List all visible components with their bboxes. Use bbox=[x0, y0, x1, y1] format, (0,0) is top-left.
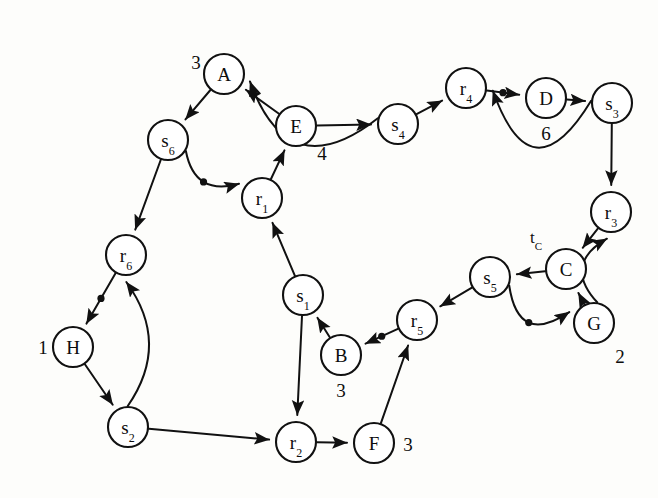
edge-line bbox=[578, 293, 584, 304]
node-label-s4: s4 bbox=[391, 115, 404, 134]
node-label-G: G bbox=[587, 314, 601, 333]
edge-token-dot bbox=[499, 89, 506, 96]
node-label-A: A bbox=[217, 65, 231, 84]
edge-line bbox=[611, 124, 612, 185]
graph-figure: As6Es4r4Ds3r3Cs5Gr1r6Hs2s1Br5r2F3461332t… bbox=[0, 0, 658, 498]
node-label-r5: r5 bbox=[411, 311, 423, 330]
node-subscript-s1: 1 bbox=[304, 298, 310, 312]
tag-label-C: tC bbox=[530, 229, 542, 246]
annotation-B: 3 bbox=[336, 381, 346, 400]
edge-line bbox=[417, 101, 443, 115]
node-subscript-r4: 4 bbox=[466, 91, 472, 105]
node-label-H: H bbox=[66, 338, 80, 357]
node-label-C: C bbox=[560, 260, 573, 279]
edge-r5-to-B bbox=[366, 329, 398, 344]
edge-token-dot bbox=[200, 178, 207, 185]
edge-line bbox=[186, 151, 239, 187]
edge-s1-to-r2 bbox=[297, 316, 302, 415]
tag-subscript-C: C bbox=[535, 240, 542, 252]
node-label-D: D bbox=[539, 89, 553, 108]
node-label-s6: s6 bbox=[161, 131, 174, 150]
node-subscript-s2: 2 bbox=[129, 430, 135, 444]
edge-C-to-s5 bbox=[517, 271, 545, 274]
edge-token-dot bbox=[378, 333, 385, 340]
node-subscript-s4: 4 bbox=[399, 127, 405, 141]
edge-line bbox=[271, 150, 285, 179]
node-subscript-r6: 6 bbox=[126, 258, 132, 272]
nodes-layer bbox=[53, 54, 632, 463]
edge-line bbox=[273, 223, 295, 276]
node-subscript-r2: 2 bbox=[296, 445, 302, 459]
edge-line bbox=[317, 125, 371, 126]
node-subscript-s5: 5 bbox=[491, 280, 497, 294]
edge-token-dot bbox=[97, 295, 104, 302]
edge-s2-to-r2 bbox=[149, 429, 269, 440]
node-subscript-r3: 3 bbox=[611, 215, 617, 229]
edge-token-dot bbox=[525, 319, 532, 326]
node-subscript-r5: 5 bbox=[417, 323, 423, 337]
edge-r4-to-D bbox=[487, 89, 519, 96]
annotation-E: 4 bbox=[317, 144, 327, 163]
edge-line bbox=[185, 90, 210, 119]
node-label-r1: r1 bbox=[256, 189, 268, 208]
annotation-F: 3 bbox=[403, 435, 413, 454]
edge-line bbox=[509, 285, 569, 324]
edge-G-to-C bbox=[578, 293, 584, 304]
edge-s6-to-r1 bbox=[186, 151, 239, 187]
edge-r1-to-E bbox=[271, 150, 285, 179]
edge-line bbox=[126, 282, 149, 406]
edge-line bbox=[517, 271, 545, 274]
graph-canvas bbox=[0, 0, 658, 498]
edge-s6-to-r6 bbox=[135, 160, 161, 230]
annotation-G: 2 bbox=[615, 347, 625, 366]
edge-line bbox=[567, 100, 585, 101]
edge-H-to-s2 bbox=[85, 364, 113, 404]
node-label-r2: r2 bbox=[290, 433, 302, 452]
node-label-F: F bbox=[369, 434, 380, 453]
edge-line bbox=[149, 429, 269, 440]
edge-s1-to-r1 bbox=[273, 223, 295, 276]
edge-line bbox=[85, 364, 113, 404]
annotation-D: 6 bbox=[541, 124, 551, 143]
node-label-r3: r3 bbox=[605, 203, 617, 222]
node-label-s5: s5 bbox=[483, 268, 496, 287]
edge-line bbox=[297, 316, 302, 415]
edge-s5-to-G bbox=[509, 285, 569, 326]
annotation-A: 3 bbox=[191, 53, 201, 72]
edge-s5-to-r5 bbox=[440, 288, 472, 307]
node-label-r4: r4 bbox=[460, 79, 472, 98]
edge-r6-to-H bbox=[86, 273, 115, 323]
edge-F-to-r5 bbox=[381, 345, 408, 423]
edge-B-to-s1 bbox=[317, 318, 329, 337]
edge-A-to-s6 bbox=[185, 90, 210, 119]
edge-D-to-s3 bbox=[567, 100, 585, 101]
edge-s4-to-r4 bbox=[417, 101, 443, 115]
annotation-H: 1 bbox=[38, 338, 48, 357]
node-subscript-s6: 6 bbox=[169, 143, 175, 157]
edge-s3-to-r3 bbox=[611, 124, 612, 185]
node-label-r6: r6 bbox=[120, 246, 132, 265]
node-label-E: E bbox=[290, 117, 302, 136]
node-subscript-r1: 1 bbox=[262, 201, 268, 215]
edge-line bbox=[135, 160, 161, 230]
node-label-s2: s2 bbox=[121, 418, 134, 437]
edge-r3-to-C bbox=[583, 228, 598, 247]
node-label-s1: s1 bbox=[296, 286, 309, 305]
edge-line bbox=[440, 288, 472, 307]
edge-line bbox=[317, 318, 329, 337]
edge-E-to-s4 bbox=[317, 125, 371, 126]
node-label-B: B bbox=[335, 346, 348, 365]
edge-line bbox=[381, 345, 408, 423]
node-label-s3: s3 bbox=[605, 94, 618, 113]
edge-line bbox=[583, 228, 598, 247]
node-subscript-s3: 3 bbox=[613, 106, 619, 120]
edge-s2-to-r6 bbox=[126, 282, 149, 406]
